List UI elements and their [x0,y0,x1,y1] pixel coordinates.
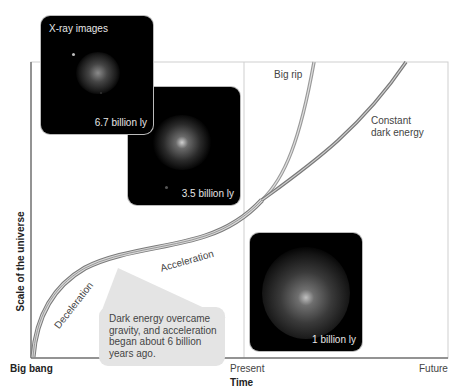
xray-panel-6-7: X-ray images 6.7 billion ly [41,16,153,134]
constant-label-line2: dark energy [371,127,424,138]
callout-box: Dark energy overcame gravity, and accele… [99,307,225,366]
x-tick-present: Present [230,363,264,374]
big-rip-label: Big rip [274,69,302,80]
star-dot [165,186,168,189]
panel-caption: 1 billion ly [312,334,356,345]
panel-caption: 6.7 billion ly [95,117,147,128]
x-tick-big-bang: Big bang [10,363,53,374]
cluster-glow [262,247,350,339]
star-dot [72,53,75,56]
x-tick-future: Future [419,363,448,374]
x-axis-label: Time [230,377,253,388]
cluster-glow [152,115,212,170]
y-axis-label: Scale of the universe [15,197,26,327]
xray-panel-1: 1 billion ly [250,233,362,351]
constant-label-line1: Constant [371,115,411,126]
star-dot [100,92,102,94]
panel-caption: 3.5 billion ly [182,188,234,199]
panel-title: X-ray images [49,23,108,34]
cluster-glow [76,52,120,94]
